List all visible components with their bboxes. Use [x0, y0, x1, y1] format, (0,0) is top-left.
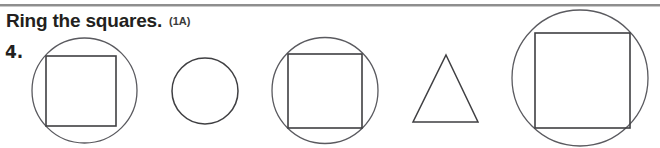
shape-item-2-circle[interactable]: [172, 58, 238, 124]
ring-circle-1[interactable]: [32, 38, 137, 143]
square-5[interactable]: [535, 33, 630, 128]
shapes-row: [0, 0, 660, 148]
shape-item-3-ringed-square[interactable]: [272, 38, 378, 144]
square-3[interactable]: [288, 54, 362, 128]
square-1[interactable]: [46, 56, 116, 126]
shape-item-1-ringed-square[interactable]: [32, 38, 137, 143]
shape-item-4-triangle[interactable]: [413, 55, 478, 122]
shape-item-5-ringed-square[interactable]: [512, 10, 648, 146]
worksheet-page: Ring the squares.(1A) 4.: [0, 0, 660, 148]
triangle-4[interactable]: [413, 55, 478, 122]
ring-circle-5[interactable]: [512, 10, 648, 146]
shapes-canvas: [0, 0, 660, 148]
circle-2[interactable]: [172, 58, 238, 124]
